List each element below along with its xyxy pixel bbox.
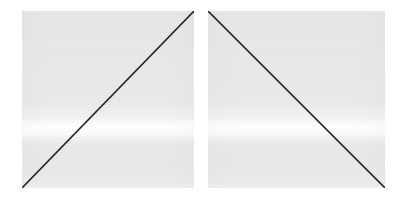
descending-sweep-line	[208, 11, 385, 188]
figure-root	[0, 0, 402, 200]
left-panel-trace-svg	[22, 11, 194, 188]
right-spectrogram-panel	[208, 11, 385, 188]
ascending-sweep-line	[22, 11, 194, 188]
right-panel-trace-svg	[208, 11, 385, 188]
left-spectrogram-panel	[22, 11, 194, 188]
